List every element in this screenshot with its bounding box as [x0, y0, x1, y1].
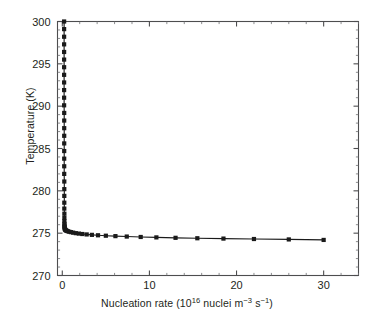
data-point-marker	[62, 172, 66, 176]
data-point-marker	[104, 234, 108, 238]
data-point-marker	[62, 27, 66, 31]
y-tick-label: 270	[32, 270, 50, 282]
data-point-marker	[62, 187, 66, 191]
data-point-marker	[62, 58, 66, 62]
data-point-marker	[62, 141, 66, 145]
data-point-marker	[62, 111, 66, 115]
x-axis-title-prefix: Nucleation rate (10	[101, 297, 192, 309]
data-point-marker	[62, 179, 66, 183]
data-point-marker	[62, 201, 66, 205]
plot-frame	[58, 22, 359, 276]
data-point-marker	[173, 236, 177, 240]
data-point-marker	[62, 80, 66, 84]
data-point-marker	[96, 233, 100, 237]
data-point-marker	[62, 35, 66, 39]
data-point-marker	[62, 65, 66, 69]
data-point-marker	[62, 134, 66, 138]
data-point-marker	[80, 232, 84, 236]
axis-frame	[58, 22, 359, 276]
data-point-marker	[62, 194, 66, 198]
data-point-marker	[62, 149, 66, 153]
x-axis-title-exponent-3: −1	[260, 296, 269, 305]
data-point-marker	[62, 103, 66, 107]
data-series-line	[64, 22, 324, 240]
axis-tick-labels: 0102030270275280285290295300	[32, 16, 330, 291]
x-axis-title-mid: nuclei m	[200, 297, 243, 309]
data-series	[62, 19, 326, 242]
data-point-marker	[287, 237, 291, 241]
y-axis-title-wrapper: Temperature (K)	[0, 0, 24, 275]
x-tick-label: 30	[318, 279, 330, 291]
data-point-marker	[62, 207, 66, 211]
axis-ticks	[58, 22, 359, 276]
data-point-marker	[62, 19, 66, 23]
x-axis-title-exponent-2: −3	[243, 296, 252, 305]
data-point-marker	[62, 118, 66, 122]
data-point-marker	[322, 238, 326, 242]
data-point-marker	[62, 157, 66, 161]
data-point-marker	[62, 50, 66, 54]
data-point-marker	[252, 237, 256, 241]
data-point-marker	[62, 164, 66, 168]
y-axis-title: Temperature (K)	[24, 0, 36, 256]
data-point-marker	[113, 234, 117, 238]
x-tick-label: 0	[59, 279, 65, 291]
data-point-marker	[90, 233, 94, 237]
data-point-marker	[62, 212, 66, 216]
data-point-marker	[62, 73, 66, 77]
x-tick-label: 20	[230, 279, 242, 291]
data-point-marker	[62, 96, 66, 100]
data-point-marker	[62, 42, 66, 46]
x-axis-title-suffix: )	[269, 297, 273, 309]
x-axis-title: Nucleation rate (1016 nuclei m−3 s−1)	[0, 297, 374, 309]
data-point-marker	[125, 234, 129, 238]
figure-container: 0102030270275280285290295300 Temperature…	[0, 0, 374, 327]
data-point-marker	[195, 236, 199, 240]
data-point-marker	[62, 126, 66, 130]
data-point-marker	[221, 236, 225, 240]
chart-plot-area: 0102030270275280285290295300	[0, 0, 374, 327]
data-point-marker	[62, 88, 66, 92]
data-point-marker	[85, 232, 89, 236]
data-point-marker	[139, 235, 143, 239]
data-point-marker	[154, 235, 158, 239]
x-tick-label: 10	[143, 279, 155, 291]
